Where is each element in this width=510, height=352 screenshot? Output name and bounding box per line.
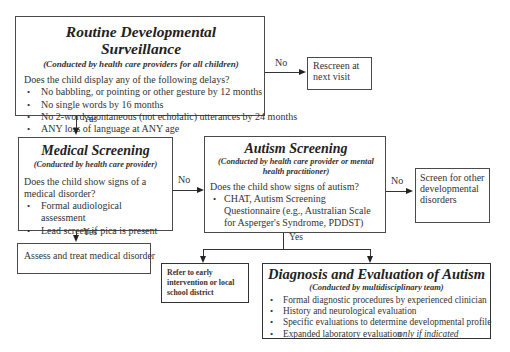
diagnosis-list: Formal diagnostic procedures by experien…: [267, 295, 486, 340]
routine-list: No babbling, or pointing or other gestur…: [24, 86, 258, 135]
arrow-down-icon: [73, 128, 79, 135]
refer-text: Refer to early intervention or local sch…: [167, 268, 243, 298]
list-item: ANY loss of language at ANY age: [24, 123, 258, 135]
medical-subtitle: (Conducted by health care provider): [24, 160, 167, 170]
routine-subtitle: (Conducted by health care providers for …: [24, 59, 258, 69]
diagnosis-box: Diagnosis and Evaluation of Autism (Cond…: [262, 263, 491, 339]
connector-autism-down: [283, 233, 284, 250]
label-no: No: [275, 57, 287, 68]
list-item: Expanded laboratory evaluation only if i…: [267, 329, 486, 340]
routine-surveillance-box: Routine Developmental Surveillance (Cond…: [15, 16, 265, 116]
assess-text: Assess and treat medical disorder: [24, 250, 144, 263]
label-yes: Yes: [289, 232, 303, 242]
routine-title: Routine Developmental Surveillance: [24, 23, 258, 57]
autism-list: CHAT, Autism Screening Questionnaire (e.…: [210, 193, 382, 229]
autism-question: Does the child show signs of autism?: [210, 181, 382, 193]
autism-screening-box: Autism Screening (Conducted by health ca…: [204, 136, 386, 233]
diagnosis-last-item-note: only if indicated: [398, 329, 458, 339]
list-item: Formal diagnostic procedures by experien…: [267, 295, 486, 306]
list-item: Specific evaluations to determine develo…: [267, 317, 486, 328]
list-item: Formal audiological assessment: [24, 200, 167, 225]
diagnosis-last-item: Expanded laboratory evaluation: [283, 329, 402, 339]
connector-branch-horizontal: [203, 249, 371, 250]
routine-question: Does the child display any of the follow…: [24, 74, 258, 86]
list-item: History and neurological evaluation: [267, 306, 486, 317]
list-item: No babbling, or pointing or other gestur…: [24, 86, 258, 98]
arrow-down-icon: [367, 256, 373, 263]
autism-title: Autism Screening: [210, 141, 382, 156]
list-item: No single words by 16 months: [24, 99, 258, 111]
connector-medical-autism: [173, 190, 199, 191]
diagnosis-subtitle: (Conducted by multidisciplinary team): [267, 283, 486, 293]
label-no: No: [178, 174, 190, 185]
connector-routine-rescreen: [265, 72, 301, 73]
refer-box: Refer to early intervention or local sch…: [161, 263, 249, 303]
arrow-down-icon: [200, 256, 206, 263]
connector-autism-other: [386, 191, 408, 192]
diagnosis-title: Diagnosis and Evaluation of Autism: [267, 267, 486, 283]
arrow-right-icon: [299, 69, 306, 75]
rescreen-box: Rescreen at next visit: [307, 57, 372, 90]
arrow-right-icon: [406, 188, 413, 194]
medical-screening-box: Medical Screening (Conducted by health c…: [18, 137, 173, 231]
list-item: CHAT, Autism Screening Questionnaire (e.…: [210, 193, 382, 229]
arrow-right-icon: [197, 187, 204, 193]
list-item: No 2-word spontaneous (not echolalic) ut…: [24, 111, 258, 123]
rescreen-text: Rescreen at next visit: [313, 61, 366, 82]
other-text: Screen for other developmental disorders: [420, 172, 485, 205]
autism-subtitle: (Conducted by health care provider or me…: [210, 157, 382, 176]
assess-box: Assess and treat medical disorder: [17, 243, 151, 274]
arrow-down-icon: [73, 235, 79, 242]
label-no: No: [391, 175, 403, 186]
other-disorders-box: Screen for other developmental disorders: [415, 168, 490, 223]
medical-title: Medical Screening: [24, 143, 167, 158]
medical-question: Does the child show signs of a medical d…: [24, 176, 167, 200]
label-yes: Yes: [83, 227, 97, 237]
label-yes: Yes: [83, 114, 97, 124]
